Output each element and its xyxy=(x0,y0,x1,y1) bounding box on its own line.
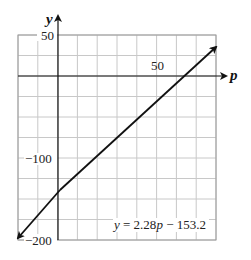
equation-label: y = 2.28p − 153.2 xyxy=(112,217,206,232)
y-axis-label: y xyxy=(44,11,53,27)
y-tick-neg100: −100 xyxy=(25,151,52,166)
x-axis-label: p xyxy=(228,67,238,83)
line-chart: y p 50 −100 −200 50 y = 2.28p − 153.2 xyxy=(0,0,251,260)
y-tick-neg200: −200 xyxy=(25,233,52,248)
data-line-lower xyxy=(18,190,60,238)
data-line xyxy=(60,47,216,190)
x-tick-50: 50 xyxy=(151,58,164,73)
y-tick-50: 50 xyxy=(41,28,54,43)
